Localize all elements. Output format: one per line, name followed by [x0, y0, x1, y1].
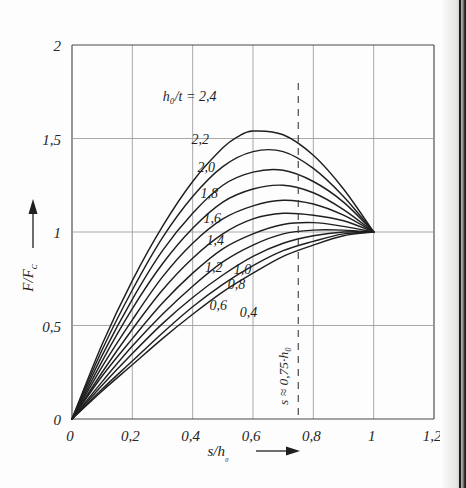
- x-tick-label: 0,2: [121, 428, 140, 444]
- x-axis-arrow-head: [286, 447, 300, 456]
- y-tick-label: 0: [54, 412, 62, 428]
- chart-gridlines: [72, 45, 434, 419]
- curve-label-2-4: h₀/t = 2,4: [163, 89, 217, 104]
- chart-curves: [72, 131, 374, 419]
- curve-label-2-0: 2,0: [197, 160, 215, 175]
- svg-text:F/Fᴄ: F/Fᴄ: [20, 264, 39, 293]
- spring-curve-1-0: [72, 230, 374, 419]
- curve-label-0-8: 0,8: [228, 277, 246, 292]
- figure-root: s ≈ 0,75·h₀ 00,20,40,60,811,200,511,52 h…: [0, 0, 466, 488]
- curve-label-1-4: 1,4: [207, 233, 225, 248]
- curve-label-1-2: 1,2: [205, 260, 223, 275]
- curve-label-1-8: 1,8: [201, 186, 219, 201]
- y-tick-label: 1: [54, 225, 62, 241]
- disc-spring-characteristic-chart: s ≈ 0,75·h₀ 00,20,40,60,811,200,511,52 h…: [0, 0, 466, 488]
- x-tick-label: 0,4: [181, 428, 200, 444]
- spring-curve-1-2: [72, 223, 374, 419]
- page-edge-dark-line: [459, 0, 461, 488]
- y-axis-title: F/Fᴄ: [20, 199, 39, 293]
- spring-curve-2-0: [72, 170, 374, 419]
- x-tick-label: 0,8: [302, 428, 321, 444]
- x-tick-label: 1,2: [423, 428, 442, 444]
- curve-label-1-6: 1,6: [204, 211, 222, 226]
- y-tick-label: 2: [54, 38, 62, 54]
- x-tick-label: 0: [66, 428, 74, 444]
- curve-label-0-6: 0,6: [210, 298, 228, 313]
- y-tick-label: 0,5: [42, 319, 61, 335]
- curve-label-0-4: 0,4: [240, 305, 258, 320]
- x-tick-label: 1: [368, 428, 376, 444]
- curve-label-1-0: 1,0: [234, 262, 252, 277]
- scanned-page-edge: [440, 0, 466, 488]
- y-axis-arrow-head: [29, 199, 38, 214]
- svg-text:s/h₀: s/h₀: [207, 443, 229, 462]
- x-axis-title: s/h₀: [207, 443, 300, 462]
- y-tick-label: 1,5: [42, 132, 61, 148]
- x-tick-label: 0,6: [242, 428, 261, 444]
- annotation-text: s ≈ 0,75·h₀: [276, 347, 291, 405]
- curve-label-2-2: 2,2: [191, 132, 209, 147]
- axis-tick-labels: 00,20,40,60,811,200,511,52: [42, 38, 442, 444]
